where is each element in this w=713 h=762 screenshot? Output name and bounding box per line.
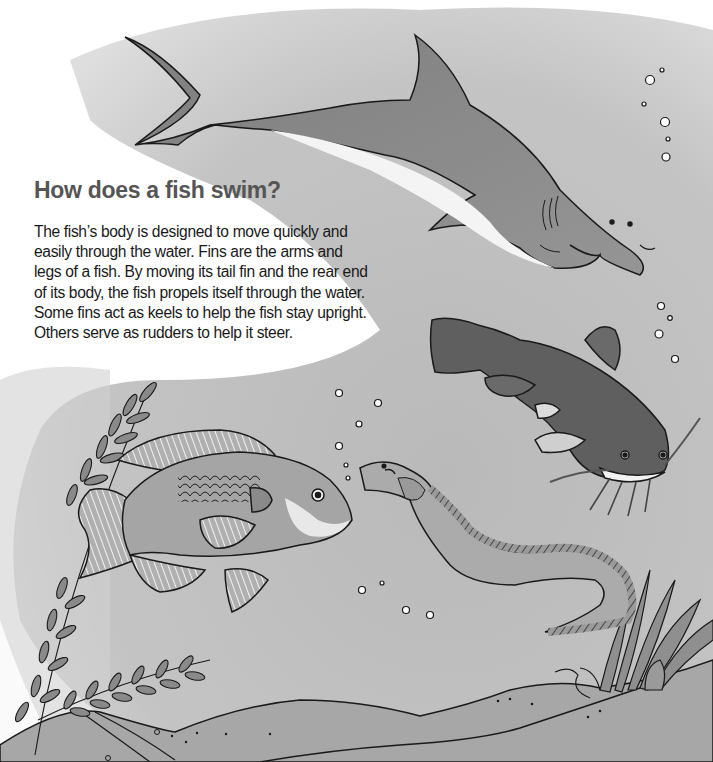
page-title: How does a fish swim? (34, 177, 281, 204)
paragraph-line: Some fins act as keels to help the fish … (34, 303, 534, 323)
body-paragraph: The fish’s body is designed to move quic… (34, 222, 534, 343)
paragraph-line: The fish’s body is designed to move quic… (34, 222, 534, 242)
underwater-illustration (0, 0, 713, 762)
paragraph-line: Others serve as rudders to help it steer… (34, 323, 534, 343)
paragraph-line: legs of a fish. By moving its tail fin a… (34, 262, 534, 282)
paragraph-line: easily through the water. Fins are the a… (34, 242, 534, 262)
paragraph-line: of its body, the fish propels itself thr… (34, 283, 534, 303)
